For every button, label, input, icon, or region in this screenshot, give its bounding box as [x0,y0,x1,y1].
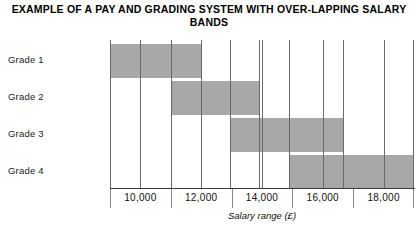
grade-label-1: Grade 1 [8,54,44,65]
gridline-0 [110,40,111,188]
grade-label-2: Grade 2 [8,91,44,102]
gridline-11 [413,40,414,188]
x-tick-label-1: 12,000 [171,192,232,203]
gridline-2 [171,40,172,188]
gridline-9 [343,40,344,188]
x-axis-caption: Salary range (£) [110,210,414,221]
salary-band-grade-3 [230,118,342,152]
x-axis-tick-row: 10,00012,00014,00016,00018,000 [110,189,414,208]
gridline-3 [201,40,202,188]
x-tick-label-4: 18,000 [353,192,414,203]
grade-label-3: Grade 3 [8,128,44,139]
grade-label-4: Grade 4 [8,165,44,176]
gridline-7 [289,40,290,188]
salary-band-grade-1 [110,44,201,78]
x-tick-label-2: 14,000 [232,192,293,203]
gridline-4 [230,40,231,188]
gridline-1 [140,40,141,188]
salary-band-grade-2 [171,81,259,115]
chart-title: EXAMPLE OF A PAY AND GRADING SYSTEM WITH… [4,3,414,29]
salary-band-grade-4 [289,155,414,189]
plot-area [110,40,414,188]
gridline-6 [262,40,263,188]
x-tick-label-0: 10,000 [110,192,171,203]
gridline-10 [384,40,385,188]
gridline-8 [323,40,324,188]
gridline-5 [259,40,260,188]
x-tick-label-3: 16,000 [292,192,353,203]
